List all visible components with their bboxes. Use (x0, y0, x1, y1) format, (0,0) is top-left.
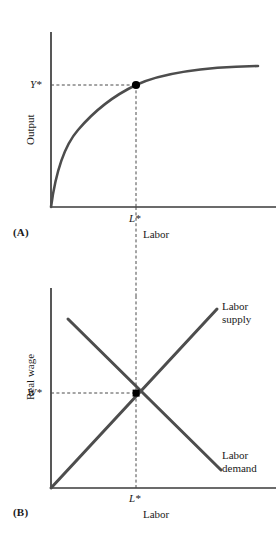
labor-supply-label-line1: Labor (222, 300, 276, 313)
panel-b-tag: (B) (13, 506, 28, 518)
labor-supply-line (51, 309, 217, 488)
labor-demand-line (68, 319, 221, 470)
panel-a-x-marker: L* (129, 212, 141, 224)
panel-b-x-marker: L* (129, 492, 141, 504)
panel-a-equilibrium-point (132, 81, 140, 89)
panel-a-y-axis-label: Output (24, 114, 36, 145)
panel-b-equilibrium-point (133, 390, 140, 397)
panel-a-y-marker: Y* (30, 78, 42, 90)
panel-a-x-axis-label: Labor (143, 228, 169, 240)
labor-supply-label-line2: supply (222, 313, 276, 326)
labor-supply-label: Labor supply (222, 300, 276, 325)
panel-b-x-axis-label: Labor (143, 508, 169, 520)
labor-demand-label: Labor demand (222, 449, 276, 474)
panel-a-graph (51, 32, 276, 296)
labor-demand-label-line1: Labor (222, 449, 276, 462)
figure-root: Output Y* L* Labor (A) Real wage W* L* L… (0, 0, 280, 536)
production-function-curve (51, 66, 258, 207)
labor-demand-label-line2: demand (222, 462, 276, 475)
panel-b-y-marker: W* (27, 386, 42, 398)
panel-a-tag: (A) (13, 226, 29, 238)
